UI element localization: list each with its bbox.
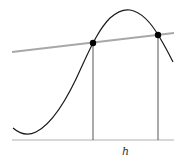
right-intersection-point <box>155 32 161 38</box>
left-intersection-point <box>90 40 96 46</box>
secant-diagram: h <box>0 0 186 160</box>
h-label: h <box>122 145 129 158</box>
